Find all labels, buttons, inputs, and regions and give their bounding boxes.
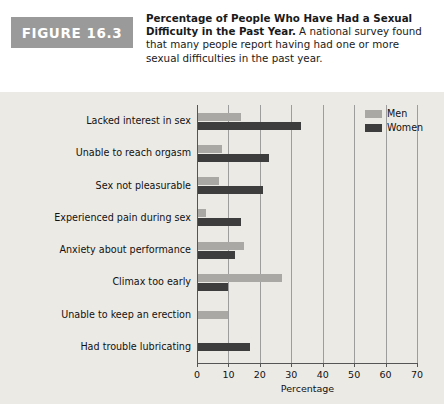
- x-tick-label-40: 40: [308, 369, 338, 380]
- legend-item-women: Women: [365, 122, 423, 133]
- bar-men: [197, 177, 219, 185]
- chart-row: Unable to reach orgasm: [197, 137, 417, 169]
- bar-women: [197, 186, 263, 194]
- bar-women: [197, 251, 235, 259]
- x-tick-label-70: 70: [402, 369, 432, 380]
- chart-panel: Lacked interest in sexUnable to reach or…: [0, 92, 444, 404]
- category-label: Unable to keep an erection: [61, 310, 191, 320]
- x-tick-60: [386, 363, 387, 367]
- legend-swatch-men: [365, 110, 382, 118]
- x-tick-label-20: 20: [245, 369, 275, 380]
- bar-women: [197, 122, 301, 130]
- legend-swatch-women: [365, 124, 382, 132]
- x-tick-label-50: 50: [339, 369, 369, 380]
- plot-area: Lacked interest in sexUnable to reach or…: [197, 105, 417, 363]
- category-label: Climax too early: [112, 277, 191, 287]
- legend-label-women: Women: [387, 122, 423, 133]
- bar-men: [197, 242, 244, 250]
- category-label: Anxiety about performance: [59, 245, 191, 255]
- figure-header: FIGURE 16.3 Percentage of People Who Hav…: [0, 8, 444, 86]
- bar-men: [197, 274, 282, 282]
- category-label: Lacked interest in sex: [86, 116, 191, 126]
- chart-row: Had trouble lubricating: [197, 331, 417, 363]
- category-label: Experienced pain during sex: [54, 213, 191, 223]
- bar-women: [197, 218, 241, 226]
- x-tick-50: [354, 363, 355, 367]
- chart-legend: Men Women: [365, 108, 423, 136]
- category-label: Sex not pleasurable: [96, 181, 191, 191]
- x-tick-label-60: 60: [371, 369, 401, 380]
- x-tick-0: [197, 363, 198, 367]
- chart-row: Sex not pleasurable: [197, 170, 417, 202]
- bar-men: [197, 113, 241, 121]
- chart-row: Anxiety about performance: [197, 234, 417, 266]
- legend-label-men: Men: [387, 108, 407, 119]
- x-tick-30: [291, 363, 292, 367]
- category-label: Unable to reach orgasm: [76, 148, 191, 158]
- gridline-70: [417, 105, 418, 363]
- y-axis-line: [197, 105, 198, 363]
- figure-container: FIGURE 16.3 Percentage of People Who Hav…: [0, 0, 444, 404]
- chart-row: Unable to keep an erection: [197, 299, 417, 331]
- legend-item-men: Men: [365, 108, 423, 119]
- bar-men: [197, 209, 206, 217]
- bar-women: [197, 283, 228, 291]
- x-tick-20: [260, 363, 261, 367]
- x-axis-label: Percentage: [197, 383, 418, 394]
- x-tick-40: [323, 363, 324, 367]
- bar-men: [197, 311, 228, 319]
- category-label: Had trouble lubricating: [80, 342, 191, 352]
- x-tick-label-10: 10: [213, 369, 243, 380]
- x-tick-10: [228, 363, 229, 367]
- x-tick-70: [417, 363, 418, 367]
- x-tick-label-0: 0: [182, 369, 212, 380]
- bar-women: [197, 154, 269, 162]
- bar-men: [197, 145, 222, 153]
- x-tick-label-30: 30: [276, 369, 306, 380]
- chart-row: Climax too early: [197, 266, 417, 298]
- figure-caption: Percentage of People Who Have Had a Sexu…: [146, 12, 434, 65]
- figure-number-badge: FIGURE 16.3: [11, 17, 133, 48]
- chart-row: Experienced pain during sex: [197, 202, 417, 234]
- bar-women: [197, 343, 250, 351]
